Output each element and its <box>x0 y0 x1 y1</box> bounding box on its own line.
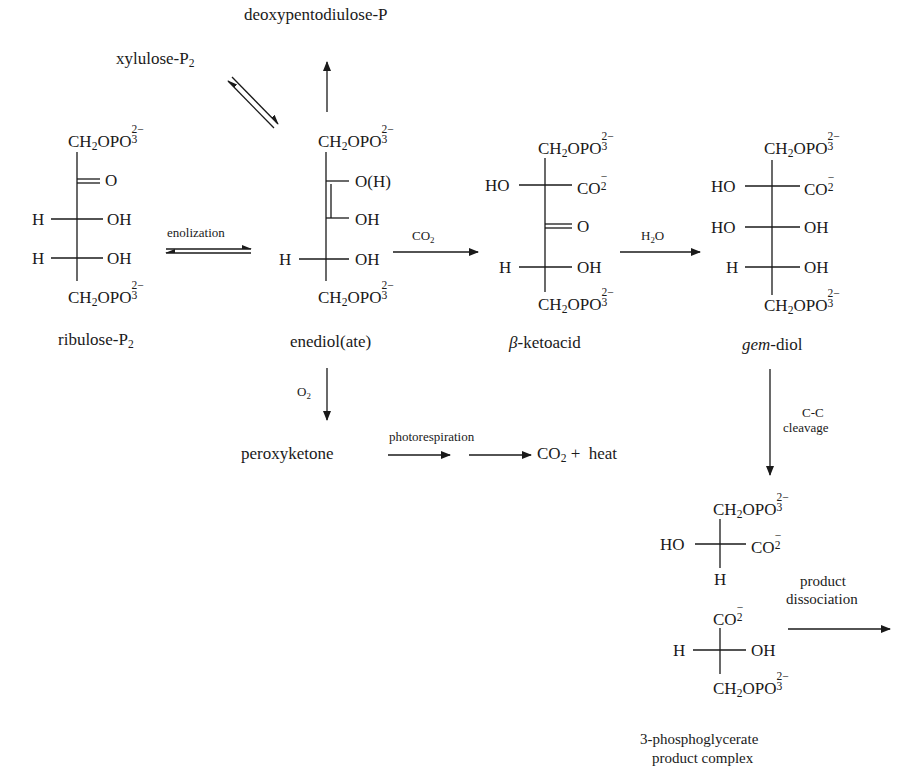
co2-heat-product: CO2 + heat <box>537 445 617 462</box>
subscript: 3 <box>601 297 607 309</box>
formula-text: OPO <box>793 139 827 158</box>
formula-text: OPO <box>742 500 776 519</box>
enediol-h: H <box>279 251 291 268</box>
ketoacid-ho: HO <box>485 177 510 194</box>
gemdiol-name: gem-diol <box>742 336 802 353</box>
name-rest: -ketoacid <box>517 333 580 352</box>
phosphate-charge: 2−3 <box>776 677 798 694</box>
co2-reagent-label: CO2 <box>412 229 434 242</box>
ketoacid-skeleton <box>519 158 572 292</box>
dissociation-label-line1: product <box>800 574 846 589</box>
carboxylate-charge: −2 <box>828 178 840 195</box>
ribulose-top-group: CH2OPO2−3 <box>68 130 154 150</box>
product-upper-skeleton <box>695 519 746 568</box>
phosphate-charge: 2−3 <box>131 130 153 147</box>
ribulose-h-1: H <box>32 211 44 228</box>
phosphate-charge: 2−3 <box>381 286 403 303</box>
carboxylate-charge: −2 <box>601 177 613 194</box>
formula-text: OPO <box>567 139 601 158</box>
xylulose-text: xylulose-P <box>116 49 189 68</box>
subscript: 3 <box>131 134 137 146</box>
ketoacid-oh: OH <box>577 259 602 276</box>
subscript: 2 <box>775 540 781 552</box>
reagent-text: H <box>641 228 650 243</box>
compound-name: ribulose-P <box>58 330 128 349</box>
name-rest: -diol <box>770 335 802 354</box>
deoxypentodiulose-label: deoxypentodiulose-P <box>244 6 388 23</box>
ribulose-name: ribulose-P2 <box>58 331 134 348</box>
product-lower-oh: OH <box>751 642 776 659</box>
enediol-skeleton <box>299 152 349 281</box>
ribulose-carbonyl-o: O <box>105 172 117 189</box>
subscript: 3 <box>131 290 137 302</box>
enolization-label: enolization <box>167 226 225 239</box>
product-complex-label-line2: product complex <box>652 751 753 766</box>
subscript: 3 <box>381 134 387 146</box>
gemdiol-oh-2: OH <box>804 259 829 276</box>
enediol-oh-3: OH <box>355 251 380 268</box>
product-lower-bottom-group: CH2OPO2−3 <box>713 677 799 697</box>
phosphate-charge: 2−3 <box>776 498 798 515</box>
reagent-text: CO <box>412 228 430 243</box>
gemdiol-top-group: CH2OPO2−3 <box>764 137 850 157</box>
ketoacid-h: H <box>499 259 511 276</box>
product-upper-h: H <box>714 571 726 588</box>
subscript: 2 <box>828 182 834 194</box>
formula-text: OPO <box>347 288 381 307</box>
formula-text: OPO <box>97 288 131 307</box>
ketoacid-carboxylate: CO−2 <box>577 177 613 197</box>
formula-text: OPO <box>742 679 776 698</box>
xylulose-subscript: 2 <box>189 57 195 70</box>
plus-sign: + <box>571 444 581 463</box>
cleavage-label-line2: cleavage <box>783 421 828 434</box>
gemdiol-ho-1: HO <box>711 178 736 195</box>
product-upper-top-group: CH2OPO2−3 <box>713 498 799 518</box>
phosphate-charge: 2−3 <box>381 130 403 147</box>
subscript: 3 <box>776 502 782 514</box>
ketoacid-top-group: CH2OPO2−3 <box>538 137 624 157</box>
product-lower-skeleton <box>693 628 746 674</box>
formula-text: CH <box>68 132 92 151</box>
enediol-top-group: CH2OPO2−3 <box>318 130 404 150</box>
ribulose-skeleton <box>51 152 103 281</box>
reagent-text: O <box>655 228 664 243</box>
o2-reagent-label: O2 <box>297 385 311 398</box>
gemdiol-h: H <box>726 259 738 276</box>
product-sub: 2 <box>561 452 567 465</box>
reagent-text: O <box>297 384 306 399</box>
subscript: 3 <box>776 681 782 693</box>
formula-text: OPO <box>347 132 381 151</box>
reagent-sub: 2 <box>430 235 434 245</box>
formula-text: OPO <box>793 296 827 315</box>
deoxypentodiulose-text: deoxypentodiulose-P <box>244 5 388 24</box>
formula-text: CH <box>68 288 92 307</box>
name-italic: gem <box>742 335 770 354</box>
formula-text: CO <box>804 180 828 199</box>
formula-text: CO <box>577 179 601 198</box>
ketoacid-carbonyl-o: O <box>577 218 589 235</box>
product-text: CO <box>537 444 561 463</box>
carboxylate-charge: −2 <box>737 608 749 625</box>
ribulose-oh-2: OH <box>107 250 132 267</box>
enediol-bottom-group: CH2OPO2−3 <box>318 286 404 306</box>
enediol-name: enediol(ate) <box>290 333 371 350</box>
formula-text: OPO <box>567 295 601 314</box>
ketoacid-bottom-group: CH2OPO2−3 <box>538 293 624 313</box>
reagent-sub: 2 <box>306 391 310 401</box>
formula-text: OPO <box>97 132 131 151</box>
product-upper-ho: HO <box>660 536 685 553</box>
formula-text: CH <box>538 295 562 314</box>
reaction-bonds-and-arrows <box>0 0 917 780</box>
phosphate-charge: 2−3 <box>601 137 623 154</box>
gemdiol-skeleton <box>745 160 800 295</box>
product-upper-carboxylate: CO−2 <box>751 536 787 556</box>
xylulose-label: xylulose-P2 <box>116 50 195 67</box>
enediol-oh-2: OH <box>355 211 380 228</box>
formula-text: CH <box>764 139 788 158</box>
subscript: 2 <box>601 181 607 193</box>
subscript: 3 <box>827 298 833 310</box>
product-complex-label-line1: 3-phosphoglycerate <box>640 732 758 747</box>
subscript: 3 <box>827 141 833 153</box>
formula-text: CH <box>318 288 342 307</box>
subscript: 2 <box>737 612 743 624</box>
